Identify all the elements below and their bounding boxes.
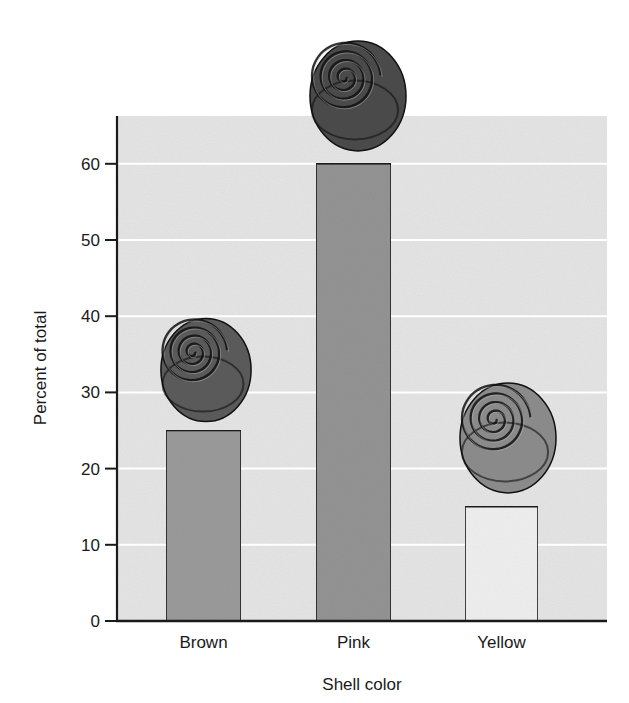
snail-brown-icon <box>161 318 251 421</box>
x-axis-category-labels: BrownPinkYellow <box>179 633 526 652</box>
y-tick-label: 20 <box>81 460 100 479</box>
x-category-label: Pink <box>337 633 371 652</box>
y-axis-title: Percent of total <box>31 311 50 425</box>
bar-chart: 0102030405060 BrownPinkYellow Percent of… <box>0 0 629 703</box>
bar-yellow <box>465 507 538 621</box>
x-category-label: Brown <box>179 633 227 652</box>
x-category-label: Yellow <box>477 633 526 652</box>
y-tick-label: 30 <box>81 383 100 402</box>
y-tick-label: 0 <box>91 612 100 631</box>
y-tick-label: 40 <box>81 307 100 326</box>
x-axis-title: Shell color <box>322 675 402 694</box>
y-tick-label: 10 <box>81 536 100 555</box>
y-axis-ticks: 0102030405060 <box>81 155 117 631</box>
bar-pink <box>316 164 391 621</box>
y-tick-label: 50 <box>81 231 100 250</box>
y-tick-label: 60 <box>81 155 100 174</box>
bar-brown <box>166 431 241 622</box>
snail-pink-icon <box>310 41 406 151</box>
snail-yellow-icon <box>460 383 556 493</box>
